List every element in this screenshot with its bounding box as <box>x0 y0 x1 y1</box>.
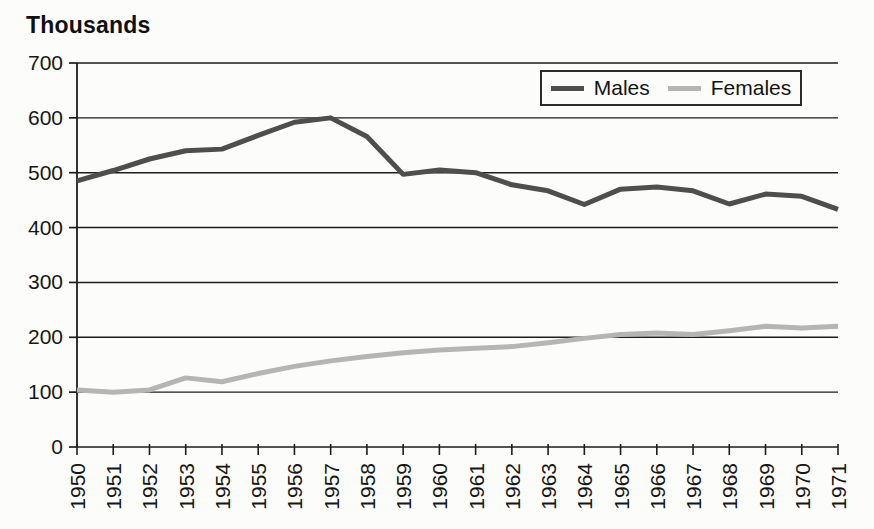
x-tick-label-1951: 1951 <box>102 463 125 510</box>
y-tick-label-700: 700 <box>28 51 63 74</box>
x-tick-label-1954: 1954 <box>211 463 234 510</box>
y-tick-label-400: 400 <box>28 216 63 239</box>
x-tick-label-1963: 1963 <box>537 463 560 510</box>
y-tick-label-600: 600 <box>28 106 63 129</box>
series-line-males <box>77 118 838 210</box>
x-tick-label-1959: 1959 <box>392 463 415 510</box>
x-tick-label-1958: 1958 <box>356 463 379 510</box>
y-tick-label-200: 200 <box>28 325 63 348</box>
y-tick-label-0: 0 <box>51 435 63 458</box>
x-tick-label-1950: 1950 <box>66 463 89 510</box>
x-tick-label-1957: 1957 <box>320 463 343 510</box>
x-tick-label-1960: 1960 <box>428 463 451 510</box>
x-tick-label-1969: 1969 <box>755 463 778 510</box>
x-tick-label-1964: 1964 <box>573 463 596 510</box>
x-tick-label-1965: 1965 <box>610 463 633 510</box>
females-legend-label: Females <box>711 76 792 100</box>
x-tick-label-1971: 1971 <box>827 463 850 510</box>
y-tick-label-100: 100 <box>28 380 63 403</box>
x-tick-label-1955: 1955 <box>247 463 270 510</box>
series-line-females <box>77 326 838 392</box>
males-legend-swatch-icon <box>551 86 584 91</box>
x-tick-label-1968: 1968 <box>718 463 741 510</box>
males-legend-label: Males <box>594 76 650 100</box>
legend: Males Females <box>540 70 802 106</box>
x-tick-label-1952: 1952 <box>138 463 161 510</box>
x-tick-label-1962: 1962 <box>501 463 524 510</box>
y-tick-label-300: 300 <box>28 270 63 293</box>
x-tick-label-1970: 1970 <box>791 463 814 510</box>
x-tick-label-1953: 1953 <box>175 463 198 510</box>
chart-page: Thousands 010020030040050060070019501951… <box>0 0 874 529</box>
females-legend-swatch-icon <box>668 86 701 91</box>
x-tick-label-1956: 1956 <box>283 463 306 510</box>
x-tick-label-1961: 1961 <box>465 463 488 510</box>
y-tick-label-500: 500 <box>28 161 63 184</box>
x-tick-label-1967: 1967 <box>682 463 705 510</box>
x-tick-label-1966: 1966 <box>646 463 669 510</box>
